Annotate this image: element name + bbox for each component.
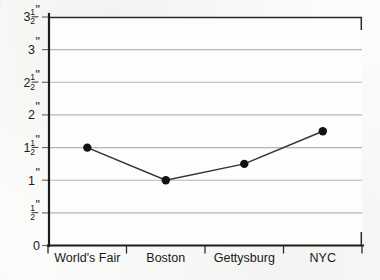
tick-whole-number: 2 (24, 76, 31, 90)
fraction-denominator: 2 (30, 16, 35, 26)
chart-figure: "123"3"122"2"121"1"120 World's FairBosto… (0, 0, 380, 280)
y-axis-tick-label: "121 (24, 133, 40, 157)
inch-symbol: " (36, 198, 40, 212)
y-axis-tick-label: "12 (30, 198, 40, 222)
fraction-denominator: 2 (30, 82, 35, 92)
y-axis-tick-label: "2 (28, 100, 40, 122)
tick-whole-number: 0 (33, 239, 40, 253)
y-axis-tick-label: "1 (28, 166, 40, 188)
tick-whole-number: 3 (28, 43, 35, 57)
data-point (319, 127, 327, 135)
plot-area-background (48, 17, 362, 245)
data-point (240, 160, 248, 168)
tick-whole-number: 2 (28, 108, 35, 122)
x-axis-category-label: NYC (310, 251, 336, 265)
fraction-denominator: 2 (30, 147, 35, 157)
fraction-denominator: 2 (30, 212, 35, 222)
x-axis-label-group: World's FairBostonGettysburgNYC (54, 251, 336, 265)
tick-whole-number: 1 (28, 174, 35, 188)
inch-symbol: " (36, 133, 40, 147)
x-axis-category-label: Boston (146, 251, 185, 265)
inch-symbol: " (36, 166, 40, 180)
inch-symbol: " (36, 3, 40, 17)
tick-whole-number: 1 (24, 141, 31, 155)
inch-symbol: " (36, 35, 40, 49)
y-axis-tick-label: "123 (24, 3, 40, 27)
y-axis-tick-label: 0 (33, 239, 40, 253)
data-point (83, 143, 91, 151)
inch-symbol: " (36, 68, 40, 82)
inch-symbol: " (36, 100, 40, 114)
line-chart: "123"3"122"2"121"1"120 World's FairBosto… (0, 0, 380, 280)
y-axis-tick-label: "3 (28, 35, 40, 57)
x-axis-category-label: World's Fair (54, 251, 120, 265)
y-axis-label-group: "123"3"122"2"121"1"120 (24, 3, 41, 253)
data-point (162, 176, 170, 184)
tick-whole-number: 3 (24, 10, 31, 24)
y-axis-tick-label: "122 (24, 68, 40, 92)
x-axis-category-label: Gettysburg (214, 251, 275, 265)
